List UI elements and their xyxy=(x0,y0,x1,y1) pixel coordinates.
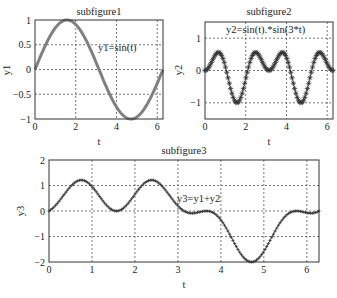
subplot-1: 0246−1−0.500.51 subfigure1 t y1 y1=sin(t… xyxy=(1,6,163,147)
x-tick-label: 3 xyxy=(175,264,180,275)
x-axis-label: t xyxy=(98,136,101,147)
annotation: y3=y1+y2 xyxy=(177,193,220,204)
subplot-title: subfigure2 xyxy=(247,6,292,17)
x-tick-label: 4 xyxy=(114,121,119,132)
x-tick-label: 0 xyxy=(33,121,38,132)
y-tick-label: 1 xyxy=(26,15,31,26)
tick-labels: 0123456−2−1012 xyxy=(34,155,309,276)
x-axis-label: t xyxy=(183,279,186,290)
figure: 0246−1−0.500.51 subfigure1 t y1 y1=sin(t… xyxy=(0,0,337,298)
x-tick-label: 4 xyxy=(284,121,289,132)
y-tick-label: 2 xyxy=(40,155,45,166)
x-tick-label: 2 xyxy=(243,121,248,132)
x-tick-label: 1 xyxy=(89,264,94,275)
x-tick-label: 6 xyxy=(155,121,160,132)
x-tick-label: 6 xyxy=(325,121,330,132)
y-tick-label: −0.5 xyxy=(13,89,31,100)
subplot-title: subfigure3 xyxy=(162,145,207,156)
subplot-3: 0123456−2−1012 subfigure3 t y3 y3=y1+y2 xyxy=(15,145,321,290)
subplot-2: 0246−101 subfigure2 t y2 y2=sin(t).*sin(… xyxy=(173,6,336,147)
y-tick-label: 0 xyxy=(196,65,201,76)
y-tick-label: 0.5 xyxy=(19,39,32,50)
y-tick-label: 0 xyxy=(40,206,45,217)
y-tick-label: 1 xyxy=(40,180,45,191)
x-axis-label: t xyxy=(268,136,271,147)
x-tick-label: 2 xyxy=(73,121,78,132)
series-markers-y2 xyxy=(202,50,335,106)
y-tick-label: 0 xyxy=(26,64,31,75)
y-tick-label: −1 xyxy=(34,231,45,242)
y-tick-label: −1 xyxy=(20,114,31,125)
y-tick-label: −2 xyxy=(34,257,45,268)
x-tick-label: 0 xyxy=(47,264,52,275)
series-markers-y3 xyxy=(47,178,320,263)
y-axis-label: y3 xyxy=(15,206,26,217)
x-tick-label: 2 xyxy=(132,264,137,275)
y-tick-label: −1 xyxy=(190,97,201,108)
y-axis-label: y2 xyxy=(173,65,184,76)
x-tick-label: 4 xyxy=(218,264,223,275)
x-tick-label: 5 xyxy=(261,264,266,275)
x-tick-label: 0 xyxy=(203,121,208,132)
subplot-title: subfigure1 xyxy=(77,6,122,17)
x-tick-label: 6 xyxy=(304,264,309,275)
y-axis-label: y1 xyxy=(1,65,12,76)
y-tick-label: 1 xyxy=(196,33,201,44)
annotation: y2=sin(t).*sin(3*t) xyxy=(226,24,306,36)
annotation: y1=sin(t) xyxy=(98,42,137,54)
